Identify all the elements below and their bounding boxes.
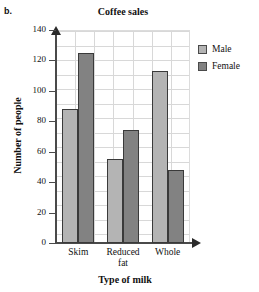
y-axis-tick-label: 0 (6, 238, 46, 247)
y-axis-title: Number of people (12, 81, 23, 191)
legend-label: Female (212, 61, 240, 71)
y-axis-tick (49, 30, 56, 31)
y-axis-tick (49, 243, 56, 244)
bar-skim-female (78, 53, 94, 243)
y-axis-tick (49, 91, 56, 92)
legend-swatch-female (198, 62, 207, 71)
bar-whole-male (152, 71, 168, 243)
legend-item-female: Female (198, 61, 240, 71)
x-axis-title: Type of milk (40, 274, 210, 285)
y-axis-tick (49, 60, 56, 61)
x-axis-category-label-line: Whole (138, 247, 198, 258)
y-axis-tick-label: 140 (6, 25, 46, 34)
y-axis-tick (49, 182, 56, 183)
bars-layer (56, 30, 192, 243)
legend-swatch-male (198, 45, 207, 54)
part-label: b. (4, 6, 12, 16)
bar-chart-figure: b. Coffee sales 020406080100120140 Numbe… (0, 0, 259, 292)
chart-title: Coffee sales (56, 6, 190, 17)
legend-item-male: Male (198, 44, 240, 54)
x-axis-category-label: Whole (138, 247, 198, 258)
legend-label: Male (212, 44, 232, 54)
y-axis-tick (49, 213, 56, 214)
legend: MaleFemale (198, 44, 240, 78)
bar-skim-male (62, 109, 78, 243)
y-axis-tick-label: 20 (6, 208, 46, 217)
y-axis-tick (49, 152, 56, 153)
y-axis-tick-label: 120 (6, 55, 46, 64)
bar-whole-female (168, 170, 184, 243)
bar-reduced-fat-female (123, 130, 139, 243)
bar-reduced-fat-male (107, 159, 123, 243)
y-axis-tick (49, 121, 56, 122)
x-axis-category-label-line: fat (93, 258, 153, 269)
